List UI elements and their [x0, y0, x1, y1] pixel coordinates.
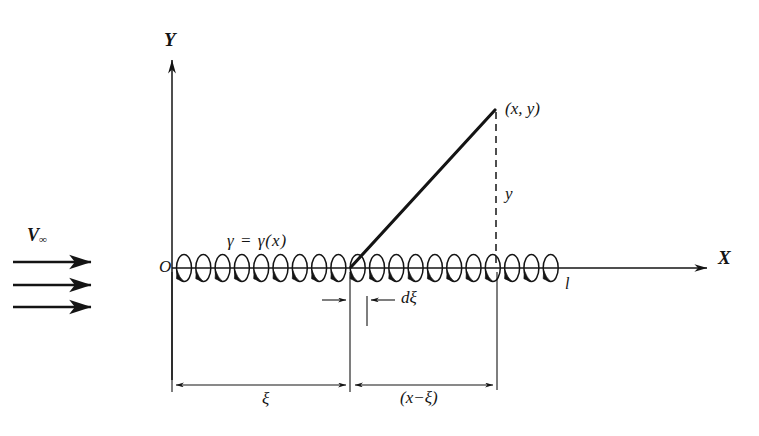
vortex-circulation-arrow — [254, 271, 261, 281]
y-axis-label: Y — [164, 30, 176, 49]
vortex-circulation-arrow — [350, 271, 357, 281]
vortex-circulation-arrow — [524, 271, 531, 281]
freestream-subscript: ∞ — [39, 233, 47, 245]
vortex-circulation-arrow — [408, 271, 415, 281]
vortex-circulation-arrow — [331, 271, 338, 281]
extension-lines — [172, 272, 497, 392]
vortex-circulation-arrow — [389, 271, 396, 281]
vortex-circulation-arrow — [273, 271, 280, 281]
vortex-circulation-arrow — [215, 271, 222, 281]
xi-label: ξ — [262, 390, 269, 407]
sheet-length-label: l — [565, 276, 569, 292]
d-xi-label: dξ — [401, 289, 417, 306]
diagram-svg — [0, 0, 759, 436]
vortex-circulation-arrow — [466, 271, 473, 281]
vortex-circulation-arrow — [505, 271, 512, 281]
x-axis-label: X — [718, 248, 731, 267]
freestream-arrows — [13, 262, 91, 307]
vortex-circulation-arrow — [177, 271, 184, 281]
vortex-circulation-arrow — [485, 271, 492, 281]
freestream-label: V∞ — [27, 226, 47, 245]
sheet-strength-label: γ = γ(x) — [227, 232, 287, 249]
vortex-circulation-arrow — [196, 271, 203, 281]
field-point-label: (x, y) — [505, 100, 540, 117]
freestream-symbol: V — [27, 225, 39, 245]
vortex-circulation-arrow — [447, 271, 454, 281]
vortex-circulation-arrow — [234, 271, 241, 281]
x-minus-xi-label: (x−ξ) — [400, 389, 438, 406]
origin-label: O — [159, 258, 171, 275]
vortex-circulation-arrow — [370, 271, 377, 281]
vortex-circulation-arrow — [427, 271, 434, 281]
leader-line — [351, 110, 495, 267]
vortex-circulation-arrow — [312, 271, 319, 281]
y-distance-label: y — [505, 185, 513, 202]
vortex-circulation-arrow — [543, 271, 550, 281]
figure-canvas: Y X O V∞ γ = γ(x) l (x, y) y dξ ξ (x−ξ) — [0, 0, 759, 436]
vortex-circulation-arrow — [292, 271, 299, 281]
